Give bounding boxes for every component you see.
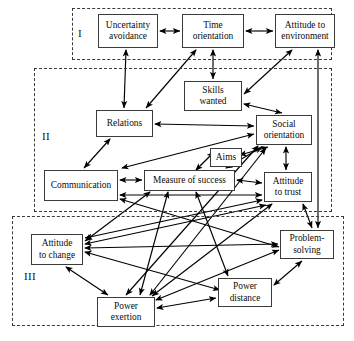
node-communication[interactable]: Communication [44, 170, 118, 201]
node-measure_of_success[interactable]: Measure of success [144, 170, 235, 191]
node-power_distance[interactable]: Power distance [218, 278, 272, 307]
node-power_exertion[interactable]: Power exertion [97, 297, 155, 327]
node-time_orientation[interactable]: Time orientation [182, 14, 244, 48]
node-attitude_to_trust[interactable]: Attitude to trust [264, 172, 312, 202]
node-skills_wanted[interactable]: Skills wanted [184, 81, 242, 111]
node-label-power_exertion: Power exertion [111, 301, 142, 323]
node-attitude_to_change[interactable]: Attitude to change [31, 234, 83, 265]
node-label-attitude_to_trust: Attitude to trust [273, 176, 304, 198]
node-aims[interactable]: Aims [210, 148, 242, 167]
node-label-aims: Aims [216, 152, 236, 163]
node-label-attitude_environment: Attitude to environment [281, 20, 328, 42]
node-label-power_distance: Power distance [230, 281, 261, 303]
node-label-problem_solving: Problem- solving [290, 233, 325, 255]
node-label-relations: Relations [107, 118, 142, 129]
region-label-II: II [42, 130, 50, 142]
node-label-skills_wanted: Skills wanted [199, 85, 226, 107]
node-label-communication: Communication [51, 180, 111, 191]
node-relations[interactable]: Relations [96, 110, 153, 137]
node-label-time_orientation: Time orientation [193, 20, 234, 42]
node-label-uncertainty_avoidance: Uncertainty avoidance [106, 20, 150, 42]
node-attitude_environment[interactable]: Attitude to environment [275, 14, 335, 48]
node-uncertainty_avoidance[interactable]: Uncertainty avoidance [98, 14, 158, 48]
region-label-I: I [78, 27, 82, 39]
node-label-attitude_to_change: Attitude to change [39, 238, 75, 260]
node-problem_solving[interactable]: Problem- solving [280, 230, 334, 259]
node-social_orientation[interactable]: Social orientation [256, 115, 312, 145]
node-label-measure_of_success: Measure of success [153, 175, 226, 186]
diagram-canvas: IIIIII Uncertainty avoidanceTime orienta… [0, 0, 354, 341]
region-label-III: III [24, 270, 36, 282]
node-label-social_orientation: Social orientation [264, 119, 305, 141]
